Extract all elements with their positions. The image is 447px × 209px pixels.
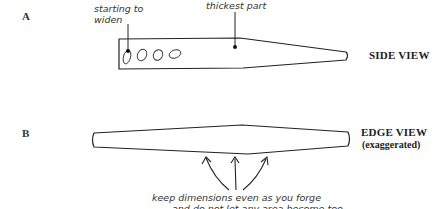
hole-icon (168, 48, 182, 60)
hole-icon (135, 48, 148, 63)
part-b-letter: B (22, 127, 29, 139)
annotation-clipped-line: and do not let any area become too (172, 203, 343, 209)
edge-view-sublabel: (exaggerated) (362, 139, 420, 150)
marker-dot-thickest (233, 45, 237, 49)
annotation-starting-to-widen-line1: starting to (94, 3, 143, 14)
diagram-drawing (0, 0, 447, 209)
hole-icon (151, 48, 164, 62)
edge-view-label: EDGE VIEW (361, 126, 427, 138)
arrow-icons (202, 157, 268, 190)
annotation-starting-to-widen-line2: widen (94, 14, 122, 25)
edge-view-outline (93, 125, 350, 154)
annotation-thickest-part: thickest part (206, 0, 266, 11)
marker-dot-widen (126, 49, 130, 53)
side-view-label: SIDE VIEW (369, 49, 430, 61)
part-a-letter: A (22, 10, 30, 22)
annotation-keep-dimensions: keep dimensions even as you forge (152, 192, 321, 203)
